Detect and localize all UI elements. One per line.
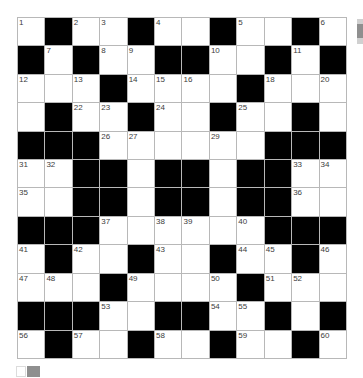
- crossword-cell[interactable]: 37: [100, 217, 126, 244]
- crossword-cell[interactable]: [73, 274, 99, 301]
- crossword-cell[interactable]: [210, 188, 236, 215]
- crossword-cell[interactable]: [45, 188, 71, 215]
- crossword-cell[interactable]: 44: [237, 245, 263, 272]
- black-cell: [100, 188, 126, 215]
- crossword-cell[interactable]: [155, 274, 181, 301]
- crossword-cell[interactable]: 15: [155, 75, 181, 102]
- crossword-cell[interactable]: 50: [210, 274, 236, 301]
- crossword-cell[interactable]: 40: [237, 217, 263, 244]
- crossword-cell[interactable]: [182, 245, 208, 272]
- cell-number: 26: [101, 132, 110, 141]
- crossword-cell[interactable]: 39: [182, 217, 208, 244]
- crossword-cell[interactable]: 60: [320, 331, 346, 358]
- crossword-cell[interactable]: 20: [320, 75, 346, 102]
- crossword-cell[interactable]: 34: [320, 160, 346, 187]
- crossword-cell[interactable]: 33: [292, 160, 318, 187]
- crossword-cell[interactable]: 56: [18, 331, 44, 358]
- crossword-cell[interactable]: 32: [45, 160, 71, 187]
- crossword-cell[interactable]: [155, 132, 181, 159]
- crossword-cell[interactable]: 4: [155, 18, 181, 45]
- crossword-cell[interactable]: [45, 75, 71, 102]
- crossword-cell[interactable]: 26: [100, 132, 126, 159]
- crossword-cell[interactable]: 11: [292, 46, 318, 73]
- black-cell: [45, 245, 71, 272]
- crossword-cell[interactable]: 41: [18, 245, 44, 272]
- crossword-cell[interactable]: 2: [73, 18, 99, 45]
- crossword-cell[interactable]: 35: [18, 188, 44, 215]
- crossword-cell[interactable]: 48: [45, 274, 71, 301]
- crossword-cell[interactable]: 47: [18, 274, 44, 301]
- crossword-cell[interactable]: [210, 160, 236, 187]
- crossword-cell[interactable]: 6: [320, 18, 346, 45]
- crossword-cell[interactable]: 42: [73, 245, 99, 272]
- cell-number: 3: [101, 18, 105, 27]
- crossword-cell[interactable]: 55: [237, 302, 263, 329]
- crossword-cell[interactable]: 49: [128, 274, 154, 301]
- crossword-cell[interactable]: 3: [100, 18, 126, 45]
- crossword-cell[interactable]: 18: [265, 75, 291, 102]
- crossword-cell[interactable]: [100, 245, 126, 272]
- crossword-cell[interactable]: [265, 331, 291, 358]
- crossword-cell[interactable]: [237, 46, 263, 73]
- crossword-cell[interactable]: [210, 217, 236, 244]
- crossword-cell[interactable]: [265, 18, 291, 45]
- crossword-cell[interactable]: 57: [73, 331, 99, 358]
- crossword-cell[interactable]: [320, 188, 346, 215]
- crossword-cell[interactable]: 51: [265, 274, 291, 301]
- crossword-cell[interactable]: [320, 103, 346, 130]
- crossword-cell[interactable]: [292, 75, 318, 102]
- crossword-cell[interactable]: 36: [292, 188, 318, 215]
- crossword-cell[interactable]: [128, 217, 154, 244]
- crossword-cell[interactable]: 54: [210, 302, 236, 329]
- crossword-cell[interactable]: 9: [128, 46, 154, 73]
- black-cell: [292, 245, 318, 272]
- crossword-cell[interactable]: 8: [100, 46, 126, 73]
- crossword-cell[interactable]: [237, 132, 263, 159]
- color-swatch-light: [16, 366, 26, 377]
- scrollbar-thumb[interactable]: [357, 24, 363, 38]
- cell-number: 43: [156, 245, 165, 254]
- crossword-cell[interactable]: 31: [18, 160, 44, 187]
- crossword-cell[interactable]: 10: [210, 46, 236, 73]
- black-cell: [320, 132, 346, 159]
- crossword-cell[interactable]: 38: [155, 217, 181, 244]
- crossword-cell[interactable]: 25: [237, 103, 263, 130]
- crossword-cell[interactable]: 27: [128, 132, 154, 159]
- crossword-cell[interactable]: [292, 302, 318, 329]
- crossword-cell[interactable]: 29: [210, 132, 236, 159]
- cell-number: 5: [238, 18, 242, 27]
- crossword-cell[interactable]: 43: [155, 245, 181, 272]
- cell-number: 15: [156, 75, 165, 84]
- crossword-cell[interactable]: 13: [73, 75, 99, 102]
- crossword-cell[interactable]: 24: [155, 103, 181, 130]
- crossword-cell[interactable]: 1: [18, 18, 44, 45]
- crossword-cell[interactable]: 22: [73, 103, 99, 130]
- crossword-cell[interactable]: 7: [45, 46, 71, 73]
- cell-number: 49: [129, 274, 138, 283]
- crossword-cell[interactable]: [100, 331, 126, 358]
- crossword-cell[interactable]: [182, 331, 208, 358]
- crossword-cell[interactable]: 59: [237, 331, 263, 358]
- crossword-cell[interactable]: 58: [155, 331, 181, 358]
- crossword-cell[interactable]: 23: [100, 103, 126, 130]
- crossword-cell[interactable]: 16: [182, 75, 208, 102]
- crossword-cell[interactable]: [128, 302, 154, 329]
- crossword-cell[interactable]: [265, 103, 291, 130]
- crossword-cell[interactable]: 52: [292, 274, 318, 301]
- crossword-cell[interactable]: [182, 103, 208, 130]
- crossword-cell[interactable]: 53: [100, 302, 126, 329]
- crossword-cell[interactable]: 5: [237, 18, 263, 45]
- crossword-cell[interactable]: [320, 274, 346, 301]
- crossword-cell[interactable]: [182, 132, 208, 159]
- crossword-cell[interactable]: 14: [128, 75, 154, 102]
- crossword-cell[interactable]: [18, 103, 44, 130]
- crossword-cell[interactable]: [182, 274, 208, 301]
- crossword-cell[interactable]: [210, 75, 236, 102]
- crossword-cell[interactable]: 12: [18, 75, 44, 102]
- crossword-cell[interactable]: [128, 188, 154, 215]
- crossword-cell[interactable]: 45: [265, 245, 291, 272]
- crossword-cell[interactable]: 46: [320, 245, 346, 272]
- cell-number: 27: [129, 132, 138, 141]
- crossword-cell[interactable]: [128, 160, 154, 187]
- crossword-cell[interactable]: [182, 18, 208, 45]
